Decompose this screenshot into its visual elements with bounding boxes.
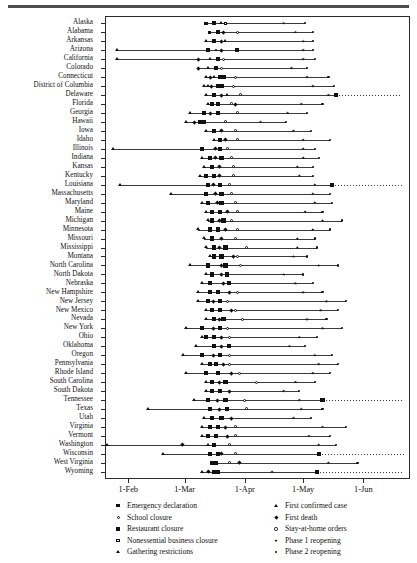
state-timeline-row[interactable] [105,360,410,369]
event-marker-sqb [212,174,216,178]
event-marker-tri [184,120,188,123]
timeline-figure: AlaskaAlabamaArkansasArizonaCaliforniaCo… [0,0,417,563]
legend-item[interactable]: Phase 2 reopening [273,546,347,558]
event-marker-sqb [216,57,220,61]
legend-item[interactable]: Emergency declaration [115,500,218,512]
state-label: Colorado [66,64,93,71]
state-timeline-row[interactable] [105,127,410,136]
event-marker-cir [234,425,237,428]
state-timeline-row[interactable] [105,226,410,235]
state-timeline-row[interactable] [105,208,410,217]
state-timeline-row[interactable] [105,288,410,297]
state-timeline-row[interactable] [105,306,410,315]
state-timeline-row[interactable] [105,405,410,414]
legend-item[interactable]: School closure [115,512,218,524]
state-timeline-row[interactable] [105,261,410,270]
state-timeline-row[interactable] [105,19,410,28]
state-timeline-row[interactable] [105,270,410,279]
state-timeline-row[interactable] [105,432,410,441]
legend-item[interactable]: Nonessential business closure [115,535,218,547]
event-marker-dia [218,246,222,250]
state-timeline-row[interactable] [105,351,410,360]
event-marker-sqb [208,452,212,456]
event-marker-cir [230,219,233,222]
state-timeline-row[interactable] [105,387,410,396]
legend-marker-filled-dot-icon [275,551,277,553]
event-marker-sqb [216,371,220,375]
state-timeline-row[interactable] [105,73,410,82]
state-timeline-row[interactable] [105,235,410,244]
event-marker-dot [318,157,320,159]
event-marker-cir [236,210,239,213]
state-timeline-row[interactable] [105,441,410,450]
state-timeline-row[interactable] [105,279,410,288]
timeline-segment-dotted [332,185,404,186]
state-timeline-row[interactable] [105,244,410,253]
event-marker-tri [146,407,150,410]
event-marker-sq [204,22,207,25]
timeline-segment [212,463,358,464]
event-marker-sqb [216,290,220,294]
state-timeline-row[interactable] [105,468,410,477]
state-label: Oregon [71,351,93,358]
event-marker-sqb [221,218,225,222]
state-timeline-row[interactable] [105,145,410,154]
state-timeline-row[interactable] [105,109,410,118]
timeline-segment [202,283,313,284]
legend-item[interactable]: Restaurant closure [115,523,218,535]
state-label: Kentucky [65,172,93,179]
state-label: Alabama [67,28,93,35]
state-timeline-row[interactable] [105,324,410,333]
state-timeline-row[interactable] [105,396,410,405]
state-timeline-row[interactable] [105,100,410,109]
state-timeline-row[interactable] [105,190,410,199]
state-timeline-row[interactable] [105,37,410,46]
event-marker-cir [230,156,233,159]
state-label: Tennessee [64,396,93,403]
event-marker-tri [184,326,188,329]
state-label: Nevada [71,315,93,322]
state-timeline-row[interactable] [105,64,410,73]
state-timeline-row[interactable] [105,369,410,378]
state-timeline-row[interactable] [105,378,410,387]
x-axis-tick [303,479,304,483]
state-timeline-row[interactable] [105,28,410,37]
state-timeline-row[interactable] [105,136,410,145]
state-timeline-row[interactable] [105,118,410,127]
state-timeline-row[interactable] [105,217,410,226]
legend-item[interactable]: Phase 1 reopening [273,535,347,547]
state-timeline-row[interactable] [105,199,410,208]
state-label: Texas [76,405,93,412]
state-timeline-row[interactable] [105,423,410,432]
state-label: Iowa [79,127,93,134]
state-timeline-row[interactable] [105,82,410,91]
state-timeline-row[interactable] [105,154,410,163]
state-label: Florida [72,100,93,107]
state-timeline-row[interactable] [105,450,410,459]
state-timeline-row[interactable] [105,252,410,261]
event-marker-sqb [208,156,212,160]
state-timeline-row[interactable] [105,414,410,423]
legend-item[interactable]: First death [273,512,347,524]
event-marker-sqb [210,210,214,214]
event-marker-cir [236,255,239,258]
event-marker-sqb [218,147,222,151]
legend-item[interactable]: Gathering restrictions [115,546,218,558]
state-timeline-row[interactable] [105,315,410,324]
state-timeline-row[interactable] [105,91,410,100]
state-timeline-row[interactable] [105,297,410,306]
state-timeline-row[interactable] [105,459,410,468]
event-marker-sqb [210,165,214,169]
state-timeline-row[interactable] [105,55,410,64]
state-timeline-row[interactable] [105,163,410,172]
legend-item[interactable]: First confirmed case [273,500,347,512]
event-marker-sqb [212,93,216,97]
state-timeline-row[interactable] [105,342,410,351]
state-label: Nebraska [66,280,93,287]
legend-item[interactable]: Stay-at-home orders [273,523,347,535]
state-timeline-row[interactable] [105,181,410,190]
state-timeline-row[interactable] [105,172,410,181]
state-timeline-row[interactable] [105,46,410,55]
state-timeline-row[interactable] [105,333,410,342]
event-marker-dia [223,425,227,429]
